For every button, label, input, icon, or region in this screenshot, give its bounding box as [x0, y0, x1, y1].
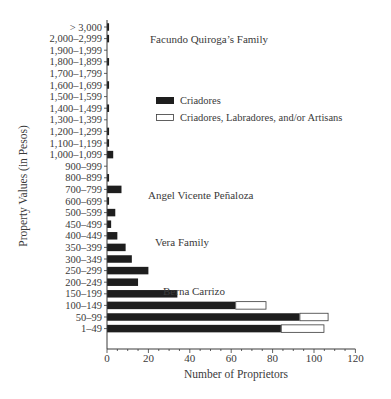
y-tick-label: 1,100–1,199: [50, 138, 103, 149]
bar-criadores: [107, 220, 111, 228]
y-tick-label: 350–399: [65, 242, 102, 253]
legend-label-criadores: Criadores: [180, 95, 221, 106]
bar-criadores: [107, 313, 300, 321]
legend-label-mixed: Criadores, Labradores, and/or Artisans: [180, 112, 342, 123]
y-tick-label: 1,800–1,899: [50, 56, 103, 67]
y-tick-label: > 3,000: [70, 22, 102, 33]
x-tick-label: 80: [267, 352, 279, 364]
annotations: Facundo Quiroga’s FamilyAngel Vicente Pe…: [148, 33, 268, 297]
y-tick-label: 1,900–1,999: [50, 45, 103, 56]
y-tick-label: 150–199: [65, 288, 102, 299]
y-tick-label: 600–699: [65, 196, 102, 207]
x-tick-label: 40: [184, 352, 196, 364]
y-tick-label: 50–99: [76, 312, 102, 323]
y-tick-label: 2,000–2,999: [50, 33, 103, 44]
bar-criadores: [107, 325, 281, 333]
y-tick-label: 500–599: [65, 207, 102, 218]
chart: > 3,0002,000–2,9991,900–1,9991,800–1,899…: [0, 0, 391, 399]
y-tick-label: 450–499: [65, 219, 102, 230]
y-axis: > 3,0002,000–2,9991,900–1,9991,800–1,899…: [50, 20, 108, 349]
bar-mixed: [236, 302, 266, 310]
annotation-label: Berna Carrizo: [163, 285, 225, 297]
y-tick-label: 1–49: [81, 323, 102, 334]
x-tick-label: 0: [104, 352, 110, 364]
x-tick-label: 120: [347, 352, 364, 364]
legend-swatch-mixed: [157, 115, 174, 121]
bar-criadores: [107, 151, 113, 159]
y-tick-label: 1,700–1,799: [50, 68, 103, 79]
y-tick-label: 700–799: [65, 184, 102, 195]
bar-criadores: [107, 186, 121, 194]
bar-criadores: [107, 267, 148, 275]
y-tick-label: 1,200–1,299: [50, 126, 103, 137]
y-tick-label: 250–299: [65, 265, 102, 276]
bar-mixed: [281, 325, 324, 333]
bar-criadores: [107, 278, 138, 286]
y-axis-title: Property Values (in Pesos): [17, 125, 30, 247]
bar-criadores: [107, 209, 115, 217]
y-tick-label: 800–899: [65, 172, 102, 183]
x-tick-label: 100: [306, 352, 323, 364]
annotation-label: Angel Vicente Peñaloza: [148, 189, 254, 201]
y-tick-label: 1,600–1,699: [50, 80, 103, 91]
y-tick-label: 300–349: [65, 254, 102, 265]
bar-criadores: [107, 302, 235, 310]
y-tick-label: 1,300–1,399: [50, 114, 103, 125]
bar-criadores: [107, 244, 126, 252]
x-tick-label: 60: [226, 352, 238, 364]
y-tick-label: 1,500–1,599: [50, 91, 103, 102]
bar-mixed: [300, 313, 328, 321]
y-tick-label: 100–149: [65, 300, 102, 311]
bar-criadores: [107, 255, 132, 263]
y-tick-label: 200–249: [65, 277, 102, 288]
x-tick-label: 20: [143, 352, 155, 364]
bar-criadores: [107, 232, 117, 240]
legend: Criadores Criadores, Labradores, and/or …: [156, 95, 342, 123]
y-tick-label: 1,000–1,099: [50, 149, 103, 160]
x-axis: 020406080100120: [104, 349, 364, 364]
annotation-label: Vera Family: [155, 236, 210, 248]
y-tick-label: 400–449: [65, 230, 102, 241]
y-tick-label: 900–999: [65, 161, 102, 172]
y-tick-label: 1,400–1,499: [50, 103, 103, 114]
annotation-label: Facundo Quiroga’s Family: [150, 33, 268, 45]
legend-swatch-criadores: [156, 97, 174, 104]
x-axis-title: Number of Proprietors: [184, 368, 289, 381]
